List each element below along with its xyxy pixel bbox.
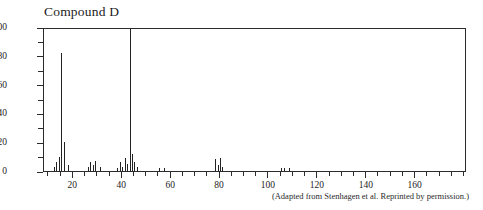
x-tick-minor: [292, 172, 293, 176]
x-tick-minor: [243, 172, 244, 176]
spectrum-peak: [95, 161, 96, 171]
x-tick-minor: [96, 172, 97, 176]
x-tick: [170, 172, 171, 178]
mass-spectrum-figure: Compound D 020406080100 2040608010012014…: [0, 0, 483, 210]
spectrum-peak: [56, 162, 57, 171]
x-tick-label: 120: [310, 180, 324, 190]
spectrum-peak: [122, 167, 123, 171]
x-tick: [414, 172, 415, 178]
x-tick-minor: [353, 172, 354, 176]
x-tick-minor: [329, 172, 330, 176]
y-tick-label: 100: [0, 23, 7, 33]
spectrum-peak: [284, 168, 285, 171]
spectrum-peak: [218, 165, 219, 171]
spectrum-peak: [68, 165, 69, 171]
x-tick-minor: [304, 172, 305, 176]
y-tick-label: 40: [0, 109, 7, 119]
spectrum-peak: [59, 157, 60, 171]
plot-area: [43, 28, 466, 172]
spectrum-peak: [164, 168, 165, 171]
x-tick-minor: [47, 172, 48, 176]
x-tick-minor: [109, 172, 110, 176]
y-tick-label: 20: [0, 138, 7, 148]
spectrum-peak: [100, 167, 101, 171]
x-tick-label: 140: [359, 180, 373, 190]
x-tick-label: 20: [68, 180, 78, 190]
x-tick-minor: [341, 172, 342, 176]
spectrum-peak: [159, 168, 160, 171]
x-tick-label: 100: [261, 180, 275, 190]
spectrum-peak: [127, 164, 128, 171]
spectrum-peak: [289, 168, 290, 171]
x-tick-minor: [157, 172, 158, 176]
spectrum-peak: [117, 168, 118, 171]
x-tick-label: 60: [165, 180, 175, 190]
x-tick-minor: [194, 172, 195, 176]
x-tick-minor: [390, 172, 391, 176]
x-tick-label: 80: [214, 180, 224, 190]
x-tick-minor: [426, 172, 427, 176]
spectrum-peak: [132, 154, 133, 171]
spectrum-peak: [130, 29, 131, 171]
spectrum-peak: [93, 165, 94, 171]
spectrum-peak: [281, 168, 282, 171]
x-tick-minor: [377, 172, 378, 176]
spectrum-peak: [222, 167, 223, 171]
x-tick-minor: [439, 172, 440, 176]
x-tick-minor: [206, 172, 207, 176]
spectrum-peak: [125, 158, 126, 171]
spectrum-canvas: [44, 29, 465, 171]
spectrum-peak: [54, 167, 55, 171]
x-tick-minor: [402, 172, 403, 176]
x-tick: [72, 172, 73, 178]
spectrum-peak: [220, 158, 221, 171]
x-tick: [121, 172, 122, 178]
figure-caption: (Adapted from Stenhagen et al. Reprinted…: [0, 191, 469, 201]
x-tick: [365, 172, 366, 178]
x-tick-minor: [255, 172, 256, 176]
x-tick-label: 160: [408, 180, 422, 190]
spectrum-peak: [64, 142, 65, 171]
x-tick-minor: [145, 172, 146, 176]
x-tick: [219, 172, 220, 178]
y-tick-label: 60: [0, 81, 7, 91]
x-tick-minor: [463, 172, 464, 176]
x-tick-minor: [231, 172, 232, 176]
spectrum-peak: [90, 162, 91, 171]
spectrum-peak: [61, 53, 62, 171]
spectrum-peak: [120, 162, 121, 171]
x-tick-label: 40: [116, 180, 126, 190]
x-tick-minor: [451, 172, 452, 176]
spectrum-peak: [215, 159, 216, 171]
x-tick-minor: [182, 172, 183, 176]
spectrum-peak: [137, 167, 138, 171]
spectrum-peak: [134, 162, 135, 171]
x-tick: [316, 172, 317, 178]
x-tick-minor: [133, 172, 134, 176]
page-title: Compound D: [44, 4, 119, 20]
x-tick: [267, 172, 268, 178]
spectrum-peak: [88, 167, 89, 171]
x-tick-minor: [60, 172, 61, 176]
y-tick-label: 80: [0, 52, 7, 62]
x-tick-minor: [280, 172, 281, 176]
x-tick-minor: [84, 172, 85, 176]
